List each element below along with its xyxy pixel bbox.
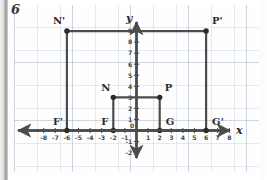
vertex-point [203, 128, 208, 133]
x-tick-label: -5 [75, 134, 82, 141]
vertex-point [64, 128, 69, 133]
x-tick-label: 5 [192, 134, 196, 141]
x-tick-label: -6 [63, 134, 70, 141]
x-tick-label: 7 [216, 134, 220, 141]
vertex-point [64, 28, 69, 33]
x-tick-label: -3 [98, 134, 105, 141]
x-tick-label: 4 [181, 134, 186, 141]
x-tick-label: 8 [227, 134, 231, 141]
y-axis-label: y [125, 12, 134, 25]
origin-label: 0 [130, 122, 135, 129]
y-tick-label: 8 [128, 38, 132, 45]
y-tick-label: 7 [128, 49, 132, 56]
y-tick-label: -1 [125, 138, 132, 145]
y-tick-label: 9 [128, 27, 132, 34]
vertex-point [203, 28, 208, 33]
vertex-point [111, 95, 116, 100]
x-tick-label: 3 [169, 134, 173, 141]
x-axis-label: x [235, 124, 243, 137]
x-tick-label: -2 [110, 134, 117, 141]
x-tick-label: 6 [204, 134, 208, 141]
y-tick-label: 2 [128, 105, 132, 112]
point-label: N [101, 82, 110, 93]
point-label: F' [53, 116, 63, 127]
point-label: P' [212, 15, 223, 26]
y-tick-label: -2 [125, 149, 132, 156]
y-tick-label: 4 [128, 83, 133, 90]
y-tick-label: 3 [128, 94, 132, 101]
point-label: G [166, 116, 175, 127]
x-tick-label: -8 [40, 134, 47, 141]
x-tick-label: -4 [87, 134, 95, 141]
y-tick-label: 5 [128, 72, 132, 79]
x-tick-label: -7 [52, 134, 59, 141]
y-tick-label: 6 [128, 61, 132, 68]
point-label: G' [212, 116, 224, 127]
vertex-point [157, 95, 162, 100]
x-tick-label: 2 [158, 134, 162, 141]
point-label: P [165, 82, 173, 93]
point-label: F [101, 116, 108, 127]
coordinate-plane-graph: -8-7-6-5-4-3-2-112345678 987654321-1-2 0… [0, 0, 267, 180]
x-tick-label: 1 [146, 134, 150, 141]
point-label: N' [53, 15, 65, 26]
worksheet-page: 6 -8-7-6-5-4-3-2-112345678 987654321-1-2… [0, 0, 267, 180]
